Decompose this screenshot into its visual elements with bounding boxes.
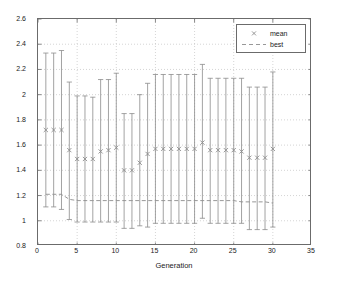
y-tick-label: 2 [0,90,30,97]
x-tick-label: 35 [307,247,315,254]
legend-dashed-line-icon [241,39,267,50]
x-tick-label: 10 [111,247,119,254]
error-bars [43,51,275,230]
y-tick-label: 1.6 [0,141,30,148]
y-tick-label: 1.4 [0,166,30,173]
legend-entry-best: best [241,39,301,50]
x-tick-label: 15 [151,247,159,254]
y-tick-label: 2.6 [0,15,30,22]
y-tick-label: 1 [0,216,30,223]
y-tick-label: 2.4 [0,40,30,47]
legend-label-mean: mean [267,30,288,37]
x-tick-label: 0 [35,247,39,254]
legend-entry-mean: mean [241,28,301,39]
y-tick-label: 1.2 [0,191,30,198]
x-tick-label: 25 [229,247,237,254]
best-line [46,194,273,203]
chart-legend: mean best [236,24,306,53]
x-tick-label: 5 [74,247,78,254]
legend-marker-x-icon [241,28,267,39]
x-tick-label: 30 [268,247,276,254]
x-axis-label: Generation [37,261,311,270]
y-tick-label: 2.2 [0,65,30,72]
errorbar-chart-figure: Dispertion 0.811.21.41.61.822.22.42.6 05… [0,0,344,283]
x-tick-label: 20 [190,247,198,254]
legend-label-best: best [267,41,283,48]
y-tick-label: 1.8 [0,115,30,122]
mean-markers [44,128,275,173]
y-tick-label: 0.8 [0,242,30,249]
